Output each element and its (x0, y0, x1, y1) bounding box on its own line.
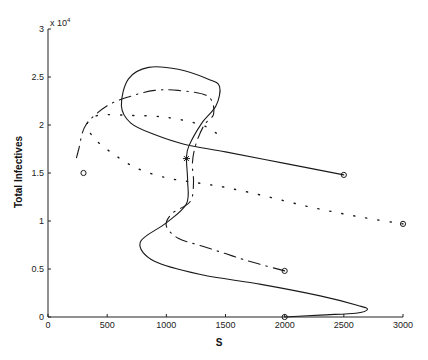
y-tick-label: 3 (39, 24, 44, 34)
y-tick-label: 2.5 (31, 72, 44, 82)
x-tick-label: 2000 (275, 320, 295, 330)
y-axis-label: Total Infectives (13, 136, 24, 208)
x-tick-label: 1000 (156, 320, 176, 330)
ticks: 05001000150020002500300000.511.522.53 (31, 24, 413, 330)
y-multiplier: x 104 (50, 17, 71, 28)
circle-marker (81, 170, 86, 175)
trajectory-dashdot-inner (75, 90, 285, 271)
trajectory-solid (121, 67, 367, 317)
y-tick-label: 0 (39, 312, 44, 322)
x-tick-label: 0 (45, 320, 50, 330)
y-tick-label: 1.5 (31, 168, 44, 178)
y-tick-label: 0.5 (31, 264, 44, 274)
x-tick-label: 500 (100, 320, 115, 330)
x-axis-label: S (216, 337, 223, 348)
axes (48, 29, 403, 317)
phase-plot: 05001000150020002500300000.511.522.53 x … (0, 0, 428, 360)
trajectory-dotted (87, 115, 403, 224)
data-series (75, 67, 403, 317)
y-tick-label: 1 (39, 216, 44, 226)
data-markers (81, 155, 406, 320)
y-tick-label: 2 (39, 120, 44, 130)
x-tick-label: 2500 (334, 320, 354, 330)
x-tick-label: 3000 (393, 320, 413, 330)
x-tick-label: 1500 (215, 320, 235, 330)
star-marker (183, 155, 190, 162)
